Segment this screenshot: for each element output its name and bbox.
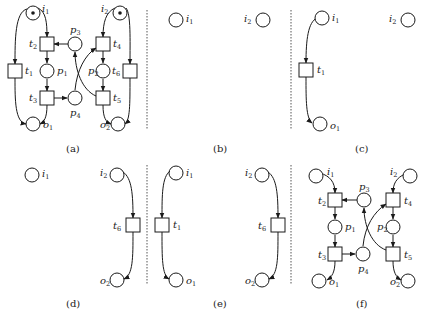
transition-t4 bbox=[386, 193, 400, 207]
caption-d: (d) bbox=[66, 298, 80, 309]
svg-text:i1: i1 bbox=[332, 12, 339, 25]
svg-text:i1: i1 bbox=[42, 168, 49, 181]
place-o2 bbox=[111, 117, 125, 131]
place-o2 bbox=[401, 274, 415, 288]
svg-text:p1: p1 bbox=[345, 221, 356, 234]
svg-text:i2: i2 bbox=[245, 167, 252, 180]
place-o2 bbox=[255, 273, 269, 287]
svg-text:i2: i2 bbox=[101, 3, 108, 16]
panel-a: i1 i2 t1 t2 t3 t4 t5 t6 p1 p2 p3 p4 o1 o… bbox=[8, 3, 137, 154]
place-i1 bbox=[169, 13, 183, 27]
svg-text:i2: i2 bbox=[244, 13, 251, 26]
place-p3 bbox=[68, 37, 82, 51]
svg-text:t2: t2 bbox=[29, 38, 37, 51]
panel-f: i1 i2 t2 t3 t4 t5 p1 p2 p3 p4 o1 o2 (f) bbox=[309, 166, 417, 309]
svg-text:t6: t6 bbox=[258, 220, 266, 233]
place-i1 bbox=[25, 168, 39, 182]
caption-f: (f) bbox=[356, 298, 368, 309]
svg-text:i1: i1 bbox=[186, 167, 193, 180]
place-i1 bbox=[169, 166, 183, 180]
svg-text:t1: t1 bbox=[317, 64, 325, 77]
place-p1 bbox=[328, 220, 342, 234]
transition-t6 bbox=[271, 218, 285, 232]
svg-text:p3: p3 bbox=[70, 24, 81, 37]
svg-text:t3: t3 bbox=[29, 92, 37, 105]
svg-text:p2: p2 bbox=[377, 221, 388, 234]
svg-text:i2: i2 bbox=[100, 167, 107, 180]
svg-text:o1: o1 bbox=[329, 276, 339, 289]
svg-text:i1: i1 bbox=[42, 3, 49, 16]
transition-t5 bbox=[386, 247, 400, 261]
svg-text:i1: i1 bbox=[186, 13, 193, 26]
transition-t1 bbox=[299, 63, 313, 77]
svg-text:p3: p3 bbox=[359, 181, 370, 194]
place-i1 bbox=[309, 169, 323, 183]
place-o1 bbox=[26, 117, 40, 131]
svg-text:t2: t2 bbox=[318, 195, 326, 208]
svg-text:p4: p4 bbox=[70, 107, 81, 120]
token-i1 bbox=[31, 11, 35, 15]
place-o1 bbox=[312, 274, 326, 288]
place-p4 bbox=[68, 91, 82, 105]
place-i1 bbox=[315, 11, 329, 25]
place-i2 bbox=[401, 13, 415, 27]
svg-text:t3: t3 bbox=[318, 249, 326, 262]
svg-text:o1: o1 bbox=[43, 119, 53, 132]
panel-b: i1 i2 (b) bbox=[169, 13, 270, 154]
svg-text:t6: t6 bbox=[112, 65, 120, 78]
svg-text:p1: p1 bbox=[57, 65, 68, 78]
svg-text:t1: t1 bbox=[25, 65, 33, 78]
place-o1 bbox=[313, 117, 327, 131]
svg-text:t5: t5 bbox=[404, 249, 412, 262]
svg-text:o1: o1 bbox=[186, 275, 196, 288]
transition-t6 bbox=[123, 64, 137, 78]
svg-text:o1: o1 bbox=[330, 120, 340, 133]
place-o1 bbox=[169, 273, 183, 287]
caption-a: (a) bbox=[66, 143, 80, 154]
place-i2 bbox=[256, 13, 270, 27]
svg-text:t4: t4 bbox=[404, 195, 412, 208]
svg-text:t4: t4 bbox=[113, 38, 121, 51]
svg-text:i2: i2 bbox=[390, 166, 397, 179]
place-i2 bbox=[110, 168, 124, 182]
place-i2 bbox=[255, 168, 269, 182]
svg-text:t1: t1 bbox=[173, 219, 181, 232]
transition-t4 bbox=[96, 37, 110, 51]
svg-text:i2: i2 bbox=[389, 13, 396, 26]
svg-text:o2: o2 bbox=[245, 275, 255, 288]
svg-text:o2: o2 bbox=[100, 275, 110, 288]
svg-text:t6: t6 bbox=[113, 220, 121, 233]
panel-c: i1 i2 t1 o1 (c) bbox=[299, 11, 415, 154]
transition-t3 bbox=[328, 247, 342, 261]
transition-t2 bbox=[328, 193, 342, 207]
place-p4 bbox=[356, 247, 370, 261]
place-p3 bbox=[357, 193, 371, 207]
transition-t1 bbox=[155, 218, 169, 232]
panel-d: i1 i2 t6 o2 (d) bbox=[25, 167, 140, 309]
caption-b: (b) bbox=[213, 143, 227, 154]
caption-c: (c) bbox=[355, 143, 369, 154]
place-p2 bbox=[386, 220, 400, 234]
token-i2 bbox=[118, 11, 122, 15]
panel-e: i1 t1 o1 i2 t6 o2 (e) bbox=[155, 166, 285, 309]
place-o2 bbox=[110, 273, 124, 287]
petri-net-figure: i1 i2 t1 t2 t3 t4 t5 t6 p1 p2 p3 p4 o1 o… bbox=[0, 0, 422, 321]
place-p1 bbox=[40, 64, 54, 78]
svg-text:p4: p4 bbox=[358, 263, 369, 276]
caption-e: (e) bbox=[213, 298, 227, 309]
transition-t6 bbox=[126, 218, 140, 232]
transition-t3 bbox=[40, 91, 54, 105]
transition-t5 bbox=[96, 91, 110, 105]
transition-t2 bbox=[40, 37, 54, 51]
place-i2 bbox=[403, 169, 417, 183]
svg-text:t5: t5 bbox=[113, 92, 121, 105]
transition-t1 bbox=[8, 64, 22, 78]
svg-text:o2: o2 bbox=[100, 119, 110, 132]
